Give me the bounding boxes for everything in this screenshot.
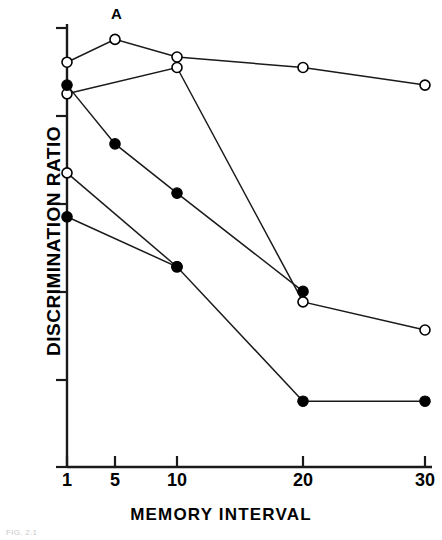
data-point-open	[62, 57, 72, 67]
data-series-layer	[62, 34, 430, 406]
data-point-filled	[172, 262, 182, 272]
data-point-open	[172, 63, 182, 73]
series-line	[67, 68, 425, 331]
series-line	[67, 173, 177, 267]
series-line	[67, 39, 425, 85]
figure-caption: FIG. 2.1	[6, 528, 37, 537]
series-open-series-2	[62, 63, 430, 336]
chart-canvas	[0, 0, 442, 540]
data-point-open	[298, 63, 308, 73]
panel-label-a: A	[111, 5, 122, 22]
data-point-open	[110, 34, 120, 44]
x-tick-label: 5	[95, 470, 135, 491]
series-filled-series-2	[62, 212, 430, 407]
data-point-filled	[298, 396, 308, 406]
data-point-filled	[110, 139, 120, 149]
data-point-filled	[62, 80, 72, 90]
data-point-filled	[298, 286, 308, 296]
data-point-open	[298, 297, 308, 307]
data-point-open	[172, 52, 182, 62]
x-axis-title: MEMORY INTERVAL	[0, 505, 442, 525]
data-point-open	[420, 325, 430, 335]
data-point-filled	[172, 188, 182, 198]
y-axis-title: DISCRIMINATION RATIO	[43, 91, 65, 391]
data-point-filled	[420, 396, 430, 406]
x-tick-label: 1	[47, 470, 87, 491]
x-axis-ticks	[67, 456, 425, 467]
series-line	[67, 85, 303, 291]
series-filled-series-1	[62, 80, 308, 297]
x-tick-label: 30	[405, 470, 442, 491]
x-tick-label: 10	[157, 470, 197, 491]
series-line	[67, 217, 425, 401]
figure-panel: 1·0 ·9 ·8 ·7 ·6 ·5 1 5 10 20 30 DISCRIMI…	[0, 0, 442, 540]
x-tick-label: 20	[283, 470, 323, 491]
data-point-open	[420, 80, 430, 90]
